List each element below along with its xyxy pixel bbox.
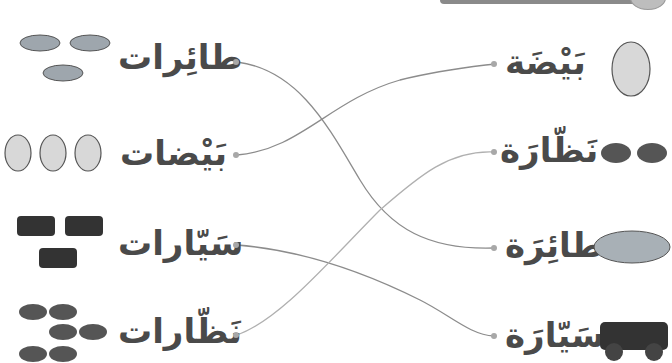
line-sunglasses[interactable] (237, 152, 494, 335)
sunglasses-image (15, 302, 115, 363)
word-airplanes-plural: طائِرات (118, 40, 243, 74)
dot-right-4[interactable] (491, 333, 497, 339)
dot-left-3[interactable] (233, 242, 239, 248)
line-airplanes[interactable] (237, 62, 494, 248)
dot-right-3[interactable] (491, 245, 497, 251)
sunglasses-single-image (600, 140, 668, 166)
line-eggs[interactable] (237, 64, 494, 155)
word-sunglasses-plural: نَظّارات (118, 314, 242, 348)
dot-right-2[interactable] (491, 149, 497, 155)
word-car: سَيّارَة (505, 318, 605, 352)
airplanes-image (18, 28, 113, 93)
dot-left-2[interactable] (233, 152, 239, 158)
word-egg: بَيْضَة (505, 45, 586, 79)
dot-right-1[interactable] (491, 61, 497, 67)
word-sunglasses: نَظّارَة (500, 133, 598, 167)
egg-image (610, 40, 652, 98)
dot-left-1[interactable] (233, 59, 239, 65)
cars-image (15, 208, 110, 276)
word-cars-plural: سَيّارات (118, 226, 243, 260)
line-cars[interactable] (237, 245, 494, 336)
car-image (596, 310, 672, 363)
airplane-image (592, 225, 672, 275)
eggs-image (2, 133, 110, 173)
dot-left-4[interactable] (233, 332, 239, 338)
word-eggs-plural: بَيْضات (120, 136, 227, 170)
word-airplane: طائِرَة (505, 228, 604, 262)
